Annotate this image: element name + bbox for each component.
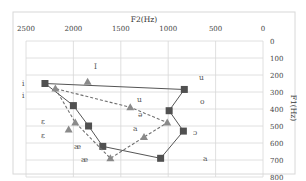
y-tick-label: 400 — [270, 106, 283, 114]
square-marker — [181, 86, 188, 93]
x-tick-label: 1000 — [159, 25, 177, 33]
square-marker — [180, 128, 187, 135]
vowel-label: a — [203, 154, 208, 163]
square-marker — [157, 155, 164, 162]
y-tick-label: 100 — [270, 55, 283, 63]
x-tick-label: 2000 — [64, 25, 82, 33]
vowel-label: æ — [81, 155, 88, 164]
square-marker — [85, 123, 92, 130]
y-axis-ticks: 0100200300400500600700800 — [270, 38, 283, 181]
x-tick-label: 1500 — [112, 25, 130, 33]
x-tick-label: 0 — [261, 25, 265, 33]
square-marker — [166, 107, 173, 114]
vowel-label: o — [200, 97, 205, 106]
y-tick-label: 500 — [270, 123, 283, 131]
y-tick-label: 700 — [270, 157, 283, 165]
vowel-label: ɛ — [41, 131, 45, 140]
chart-canvas: 25002000150010005000 0100200300400500600… — [0, 0, 306, 180]
y-tick-label: 800 — [270, 174, 283, 181]
vowel-formant-chart: 25002000150010005000 0100200300400500600… — [0, 0, 306, 180]
vowel-label: ə — [138, 110, 143, 119]
chart-frame — [13, 12, 295, 174]
y-tick-label: 600 — [270, 140, 283, 148]
x-axis-title: F2(Hz) — [131, 15, 157, 24]
y-tick-label: 0 — [270, 38, 274, 46]
vowel-label: ɛ — [41, 117, 45, 126]
y-axis-title: F1(Hz) — [289, 95, 298, 121]
square-marker — [41, 80, 48, 87]
vowel-label: I — [94, 62, 97, 71]
x-tick-label: 2500 — [17, 25, 35, 33]
vowel-label: u — [137, 95, 142, 104]
vowel-label: æ — [74, 142, 81, 151]
y-tick-label: 300 — [270, 89, 283, 97]
y-tick-label: 200 — [270, 72, 283, 80]
vowel-label: ɔ — [193, 128, 197, 137]
x-tick-label: 500 — [209, 25, 222, 33]
vowel-label: u — [199, 73, 204, 82]
square-marker — [70, 102, 77, 109]
vowel-label: a — [133, 124, 138, 133]
